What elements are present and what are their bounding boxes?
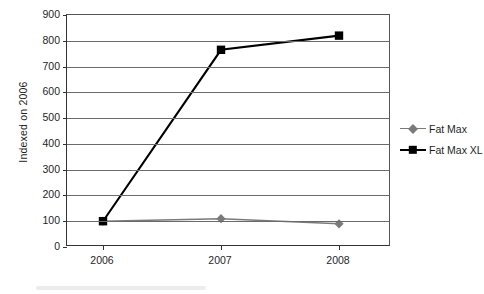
series-plot	[67, 15, 391, 247]
y-axis-tick-label: 900	[22, 9, 60, 19]
y-axis-tick-label: 800	[22, 35, 60, 45]
y-axis-tick-label: 600	[22, 86, 60, 96]
y-axis-tick	[63, 15, 67, 16]
legend-entry: Fat Max XL	[400, 139, 484, 160]
y-axis-tick-labels: 9008007006005004003002001000	[22, 8, 60, 246]
y-axis-tick-label: 300	[22, 164, 60, 174]
square-marker	[335, 31, 343, 39]
gridline	[67, 118, 389, 119]
gridline	[67, 41, 389, 42]
y-axis-tick	[63, 247, 67, 248]
x-axis-tick	[103, 245, 104, 250]
plot-area	[66, 14, 390, 246]
legend-label: Fat Max	[426, 123, 467, 135]
x-axis-tick-labels: 200620072008	[66, 254, 390, 270]
legend-glyph	[409, 145, 417, 153]
y-axis-tick-label: 700	[22, 61, 60, 71]
gridline	[67, 92, 389, 93]
gridline	[67, 170, 389, 171]
gridline	[67, 67, 389, 68]
y-axis-tick-label: 0	[22, 241, 60, 251]
series-line	[103, 36, 339, 222]
x-axis-tick-label: 2006	[90, 254, 113, 266]
square-marker	[217, 46, 225, 54]
gridline	[67, 144, 389, 145]
y-axis-tick-label: 100	[22, 215, 60, 225]
y-axis-tick-label: 200	[22, 189, 60, 199]
square-marker	[400, 144, 426, 156]
gridline	[67, 221, 389, 222]
x-axis-tick	[339, 245, 340, 250]
scan-artifact	[36, 286, 206, 290]
x-axis-tick-label: 2007	[208, 254, 231, 266]
legend-label: Fat Max XL	[426, 144, 483, 156]
legend-entry: Fat Max	[400, 118, 484, 139]
y-axis-tick-label: 400	[22, 138, 60, 148]
x-axis-tick	[221, 245, 222, 250]
y-axis-tick-label: 500	[22, 112, 60, 122]
diamond-marker	[400, 123, 426, 135]
chart-legend: Fat MaxFat Max XL	[400, 118, 484, 160]
line-chart-figure: Indexed on 2006 900800700600500400300200…	[0, 0, 484, 294]
legend-glyph	[408, 124, 418, 134]
gridline	[67, 195, 389, 196]
x-axis-tick-label: 2008	[326, 254, 349, 266]
